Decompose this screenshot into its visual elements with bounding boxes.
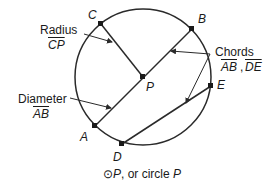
circle-dot-symbol: ⊙ bbox=[103, 167, 113, 181]
caption-point-2: P bbox=[173, 167, 181, 181]
chord-de bbox=[122, 86, 211, 144]
chords-segment-ab: AB bbox=[221, 61, 237, 73]
diameter-pointer bbox=[70, 98, 111, 108]
chords-pointer-ab bbox=[171, 51, 210, 54]
point-p-dot bbox=[140, 74, 145, 79]
radius-title: Radius bbox=[40, 24, 77, 36]
point-d-dot bbox=[119, 141, 124, 146]
point-e-label: E bbox=[217, 79, 225, 91]
chords-pointer-de bbox=[186, 54, 210, 103]
chords-segment-de: DE bbox=[245, 61, 262, 73]
point-d-label: D bbox=[113, 151, 122, 163]
point-a-label: A bbox=[80, 131, 88, 143]
point-b-label: B bbox=[198, 13, 206, 25]
chords-title: Chords bbox=[215, 46, 254, 58]
caption: ⊙P, or circle P bbox=[103, 168, 181, 180]
radius-segment: CP bbox=[48, 39, 65, 51]
chords-separator: , bbox=[240, 61, 243, 73]
diameter-segment: AB bbox=[33, 108, 49, 120]
point-a-dot bbox=[92, 123, 97, 128]
point-c-label: C bbox=[88, 9, 97, 21]
point-c-dot bbox=[98, 21, 103, 26]
radius-cp bbox=[101, 24, 143, 77]
point-e-dot bbox=[208, 83, 213, 88]
caption-text: , or circle bbox=[121, 167, 173, 181]
diameter-title: Diameter bbox=[18, 93, 67, 105]
caption-point: P bbox=[113, 167, 121, 181]
point-p-label: P bbox=[146, 81, 154, 93]
point-b-dot bbox=[189, 26, 194, 31]
